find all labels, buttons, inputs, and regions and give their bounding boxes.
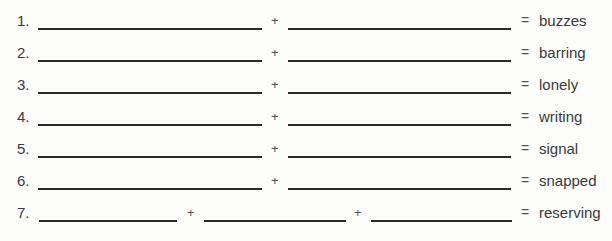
row-number: 4. bbox=[17, 108, 30, 125]
equals-sign: = bbox=[521, 108, 529, 124]
exercise-row: 2. + = barring bbox=[0, 42, 612, 66]
answer-blank[interactable] bbox=[38, 92, 262, 94]
target-word: lonely bbox=[539, 76, 578, 93]
row-number: 1. bbox=[17, 12, 30, 29]
answer-blank[interactable] bbox=[38, 188, 262, 190]
exercise-row: 7. + + = reserving bbox=[0, 202, 612, 226]
exercise-row: 4. + = writing bbox=[0, 106, 612, 130]
equals-sign: = bbox=[521, 172, 529, 188]
equals-sign: = bbox=[521, 140, 529, 156]
answer-blank[interactable] bbox=[39, 220, 177, 222]
answer-blank[interactable] bbox=[38, 156, 262, 158]
target-word: snapped bbox=[539, 172, 597, 189]
exercise-row: 6. + = snapped bbox=[0, 170, 612, 194]
target-word: buzzes bbox=[539, 12, 587, 29]
answer-blank[interactable] bbox=[288, 188, 511, 190]
answer-blank[interactable] bbox=[38, 60, 262, 62]
plus-sign: + bbox=[271, 45, 279, 60]
plus-sign: + bbox=[271, 173, 279, 188]
answer-blank[interactable] bbox=[38, 28, 262, 30]
equals-sign: = bbox=[521, 12, 529, 28]
row-number: 3. bbox=[17, 76, 30, 93]
target-word: signal bbox=[539, 140, 578, 157]
equals-sign: = bbox=[521, 76, 529, 92]
row-number: 2. bbox=[17, 44, 30, 61]
plus-sign: + bbox=[271, 109, 279, 124]
plus-sign: + bbox=[271, 141, 279, 156]
row-number: 7. bbox=[17, 204, 30, 221]
answer-blank[interactable] bbox=[288, 92, 511, 94]
equals-sign: = bbox=[521, 204, 529, 220]
row-number: 6. bbox=[17, 172, 30, 189]
answer-blank[interactable] bbox=[204, 220, 346, 222]
target-word: writing bbox=[539, 108, 582, 125]
row-number: 5. bbox=[17, 140, 30, 157]
plus-sign: + bbox=[187, 205, 195, 220]
target-word: reserving bbox=[539, 204, 601, 221]
exercise-row: 5. + = signal bbox=[0, 138, 612, 162]
plus-sign: + bbox=[354, 205, 362, 220]
plus-sign: + bbox=[271, 13, 279, 28]
exercise-row: 1. + = buzzes bbox=[0, 10, 612, 34]
answer-blank[interactable] bbox=[38, 124, 262, 126]
answer-blank[interactable] bbox=[288, 60, 511, 62]
plus-sign: + bbox=[271, 77, 279, 92]
answer-blank[interactable] bbox=[288, 124, 511, 126]
answer-blank[interactable] bbox=[288, 28, 511, 30]
answer-blank[interactable] bbox=[288, 156, 511, 158]
answer-blank[interactable] bbox=[371, 220, 512, 222]
equals-sign: = bbox=[521, 44, 529, 60]
target-word: barring bbox=[539, 44, 586, 61]
exercise-row: 3. + = lonely bbox=[0, 74, 612, 98]
